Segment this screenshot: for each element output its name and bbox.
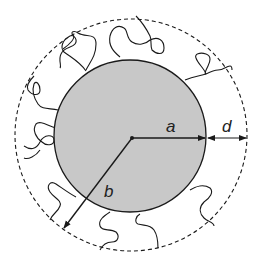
center-point — [130, 136, 134, 140]
label-a: a — [166, 117, 175, 136]
particle-brush-diagram: a d b — [0, 0, 262, 268]
label-b: b — [104, 182, 113, 201]
core-particle — [54, 60, 206, 212]
label-d: d — [222, 117, 232, 136]
